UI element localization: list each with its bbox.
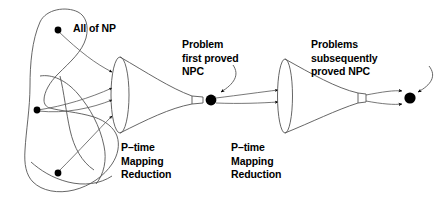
np-nodes <box>34 27 62 177</box>
np-node-middle <box>34 107 41 114</box>
node-subsequently-proved-npc <box>404 92 415 103</box>
node-first-proved-npc <box>206 95 217 106</box>
np-inner-curve-bottom <box>31 162 112 184</box>
leader-subsequently-proved-npc <box>418 66 433 92</box>
funnel-left-mouth <box>111 57 129 133</box>
label-first-proved-npc: Problem first proved NPC <box>182 38 239 79</box>
funnel-right-input-connectors <box>216 90 278 103</box>
label-subsequently-proved-npc: Problems subsequently proved NPC <box>311 38 377 79</box>
funnel-right-body-bottom <box>285 103 358 133</box>
np-completeness-diagram <box>0 0 442 200</box>
connector-output-a <box>366 91 402 95</box>
funnel-right-mouth <box>278 59 293 133</box>
np-region-group <box>25 9 119 192</box>
label-all-of-np: All of NP <box>73 22 116 36</box>
connector-output-b <box>366 101 402 104</box>
label-reduction-right: P–time Mapping Reduction <box>231 141 281 182</box>
connector-npc-node-a <box>216 90 278 98</box>
funnel-left-throat <box>192 96 203 104</box>
np-node-connectors <box>38 31 112 172</box>
label-reduction-left: P–time Mapping Reduction <box>121 141 171 182</box>
final-output-connectors <box>366 91 402 105</box>
np-inner-curve-upper <box>40 76 105 184</box>
funnel-left-body-bottom <box>120 104 192 133</box>
funnel-right-throat <box>358 93 366 103</box>
np-node-bottom <box>55 170 62 177</box>
diagram-canvas: All of NP Problem first proved NPC Probl… <box>0 0 442 200</box>
connector-npc-node-b <box>216 102 278 103</box>
np-inner-curve-lower <box>60 76 94 170</box>
np-node-top <box>55 27 62 34</box>
